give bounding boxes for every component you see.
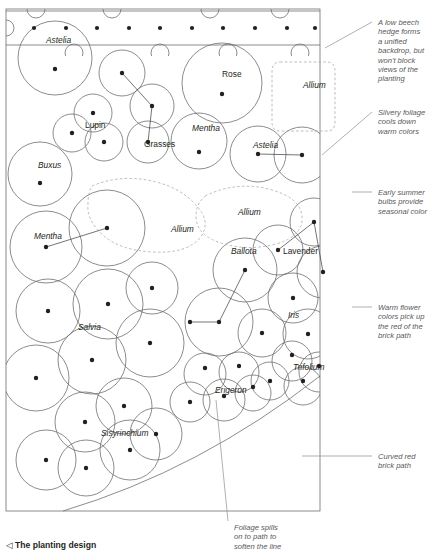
bed-label-lavender-11: Lavender: [283, 246, 318, 256]
bed-trifolium-b: [299, 352, 339, 392]
annotation-line: the red of the: [378, 322, 424, 331]
bed-label-trifolium-15: Trifolium: [293, 362, 325, 372]
annotation-line: Silvery foliage: [378, 108, 425, 117]
leader-foliage-note: [322, 112, 372, 155]
plant-connectors: [46, 73, 323, 322]
annotation-line: Foliage spills: [234, 523, 281, 532]
annotation-line: a unified: [378, 37, 424, 46]
bed-label-sisyrinchium-17: Sisyrinchium: [101, 428, 148, 438]
bed-label-ballota-12: Ballota: [231, 246, 257, 256]
allium-drift-center: [88, 178, 205, 252]
bed-label-buxus-7: Buxus: [38, 160, 62, 170]
bed-label-lupin-3: Lupin: [85, 120, 106, 130]
annotation-line: brick path: [378, 461, 416, 470]
annotation-line: soften the line: [234, 542, 281, 551]
bed-trifolium-d: [284, 367, 322, 405]
bed-rose: [182, 43, 262, 123]
bed-label-allium-9: Allium: [237, 207, 261, 217]
annotation-line: views of the: [378, 65, 424, 74]
bed-label-grasses-4: Grasses: [144, 139, 175, 149]
bed-label-mentha-5: Mentha: [192, 123, 220, 133]
bed-label-salvia-13: Salvia: [78, 322, 101, 332]
plant-center-dots: [34, 67, 325, 470]
caption-marker: ◁: [6, 540, 13, 550]
annotation-line: warm colors: [378, 127, 425, 136]
bed-label-erigeron-16: Erigeron: [215, 385, 247, 395]
bed-label-rose-1: Rose: [222, 69, 242, 79]
annotation-bulbs-note: Early summerbulbs provideseasonal color: [378, 188, 427, 216]
figure-caption: ◁ The planting design: [6, 540, 96, 550]
annotation-leader-lines: [216, 22, 372, 521]
annotation-line: won't block: [378, 56, 424, 65]
leader-spills-note: [216, 400, 228, 521]
annotation-warm-note: Warm flowercolors pick upthe red of theb…: [378, 303, 424, 341]
bed-label-allium-8: Allium: [170, 224, 194, 234]
bed-label-mentha-10: Mentha: [34, 231, 62, 241]
bed-label-iris-14: Iris: [288, 310, 300, 320]
bed-trifolium-a: [272, 341, 312, 381]
plant-labels: AsteliaRoseAlliumLupinGrassesMenthaAstel…: [34, 35, 326, 438]
bed-mentha-1: [171, 113, 227, 169]
annotation-brick-note: Curved redbrick path: [378, 452, 416, 471]
planting-beds: [3, 21, 349, 511]
annotation-line: Early summer: [378, 188, 427, 197]
planting-design-figure: AsteliaRoseAlliumLupinGrassesMenthaAstel…: [0, 0, 435, 555]
annotation-line: cools down: [378, 117, 425, 126]
annotation-line: Curved red: [378, 452, 416, 461]
bed-label-astelia-0: Astelia: [45, 35, 71, 45]
annotation-line: backdrop, but: [378, 46, 424, 55]
annotation-line: seasonal color: [378, 207, 427, 216]
leader-hedge-note: [325, 22, 372, 48]
bed-astelia-1: [18, 21, 92, 95]
annotation-line: colors pick up: [378, 312, 424, 321]
caption-text: The planting design: [15, 540, 96, 550]
allium-drift-topright: [272, 62, 335, 131]
annotation-line: hedge forms: [378, 27, 424, 36]
annotation-line: bulbs provide: [378, 197, 427, 206]
bed-label-allium-2: Allium: [302, 80, 326, 90]
annotation-line: on to path to: [234, 532, 281, 541]
annotation-foliage-note: Silvery foliagecools downwarm colors: [378, 108, 425, 136]
annotation-spills-note: Foliage spillson to path tosoften the li…: [234, 523, 281, 551]
bed-buxus: [8, 142, 72, 206]
annotation-line: Warm flower: [378, 303, 424, 312]
annotation-hedge-note: A low beechhedge formsa unifiedbackdrop,…: [378, 18, 424, 84]
annotation-line: planting: [378, 74, 424, 83]
garden-plan-drawing: AsteliaRoseAlliumLupinGrassesMenthaAstel…: [0, 0, 435, 555]
annotation-line: brick path: [378, 331, 424, 340]
bed-label-astelia-6: Astelia: [252, 140, 278, 150]
annotation-line: A low beech: [378, 18, 424, 27]
allium-drifts: [88, 62, 335, 252]
plan-border: [6, 9, 320, 511]
